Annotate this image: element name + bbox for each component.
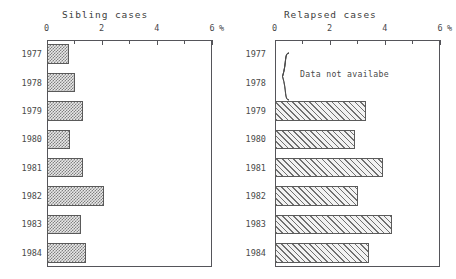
year-label-sibling-1980: 1980 [14, 134, 42, 144]
bar-sibling-1981 [47, 158, 83, 178]
x-tick-relapsed-2 [330, 40, 331, 45]
x-tick-label-sibling-0: 0 [44, 23, 49, 33]
year-label-sibling-1983: 1983 [14, 219, 42, 229]
x-tick-label-relapsed-0: 0 [272, 23, 277, 33]
year-label-relapsed-1978: 1978 [238, 78, 266, 88]
year-label-sibling-1984: 1984 [14, 248, 42, 258]
year-label-sibling-1978: 1978 [14, 78, 42, 88]
bar-sibling-1979 [47, 101, 83, 121]
x-tick-sibling-4 [157, 40, 158, 45]
year-label-relapsed-1982: 1982 [238, 191, 266, 201]
bar-relapsed-1984 [275, 243, 369, 263]
x-tick-label-sibling-2: 2 [99, 23, 104, 33]
year-label-sibling-1979: 1979 [14, 106, 42, 116]
chart-title-sibling: Sibling cases [62, 9, 148, 20]
x-axis-unit-sibling: % [219, 23, 224, 33]
bar-sibling-1978 [47, 73, 75, 93]
x-tick-sibling-6 [212, 40, 213, 45]
year-label-relapsed-1977: 1977 [238, 49, 266, 59]
x-tick-sibling-5 [184, 40, 185, 44]
chart-panel-sibling-cases: Sibling cases % 0246 1977197819791980198… [0, 0, 228, 279]
bar-relapsed-1981 [275, 158, 383, 178]
x-tick-label-sibling-6: 6 [209, 23, 214, 33]
bar-relapsed-1979 [275, 101, 366, 121]
x-tick-relapsed-3 [357, 40, 358, 44]
x-tick-label-relapsed-2: 2 [327, 23, 332, 33]
year-label-sibling-1977: 1977 [14, 49, 42, 59]
curly-brace-icon [278, 52, 300, 102]
annotation-text: Data not availabe [300, 69, 389, 79]
bar-sibling-1977 [47, 44, 69, 64]
year-label-relapsed-1984: 1984 [238, 248, 266, 258]
x-tick-sibling-2 [102, 40, 103, 45]
year-label-sibling-1981: 1981 [14, 163, 42, 173]
bar-relapsed-1980 [275, 130, 355, 150]
x-tick-sibling-3 [129, 40, 130, 44]
x-tick-relapsed-4 [385, 40, 386, 45]
data-not-available-annotation: Data not availabe [278, 52, 398, 102]
x-tick-sibling-1 [74, 40, 75, 44]
x-tick-relapsed-0 [275, 40, 276, 45]
year-label-relapsed-1983: 1983 [238, 219, 266, 229]
bar-relapsed-1983 [275, 215, 392, 235]
x-tick-label-relapsed-6: 6 [437, 23, 442, 33]
chart-panel-relapsed-cases: Relapsed cases % 0246 197719781979198019… [228, 0, 456, 279]
year-label-relapsed-1981: 1981 [238, 163, 266, 173]
year-label-sibling-1982: 1982 [14, 191, 42, 201]
x-tick-relapsed-6 [440, 40, 441, 45]
x-tick-label-sibling-4: 4 [154, 23, 159, 33]
x-tick-relapsed-5 [412, 40, 413, 44]
bar-sibling-1980 [47, 130, 70, 150]
bar-relapsed-1982 [275, 186, 358, 206]
year-label-relapsed-1980: 1980 [238, 134, 266, 144]
x-tick-relapsed-1 [302, 40, 303, 44]
bar-sibling-1982 [47, 186, 104, 206]
x-axis-unit-relapsed: % [447, 23, 452, 33]
bar-sibling-1983 [47, 215, 81, 235]
x-tick-label-relapsed-4: 4 [382, 23, 387, 33]
year-label-relapsed-1979: 1979 [238, 106, 266, 116]
chart-title-relapsed: Relapsed cases [284, 9, 377, 20]
bar-sibling-1984 [47, 243, 86, 263]
